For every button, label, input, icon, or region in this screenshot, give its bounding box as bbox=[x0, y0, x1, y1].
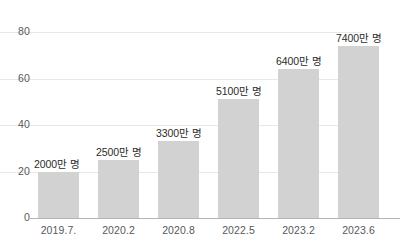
bar-label-0: 2000만 명 bbox=[34, 156, 80, 171]
x-axis-tick-3: 2022.5 bbox=[208, 224, 269, 236]
bar-2 bbox=[158, 141, 199, 218]
bars-layer: 2000만 명 2019.7. 2500만 명 2020.2 3300만 명 2… bbox=[0, 0, 412, 252]
bar-label-1: 2500만 명 bbox=[96, 144, 142, 159]
bar-5 bbox=[338, 46, 379, 218]
bar-1 bbox=[98, 160, 139, 218]
bar-0 bbox=[38, 172, 79, 219]
bar-3 bbox=[218, 99, 259, 218]
bar-4 bbox=[278, 69, 319, 218]
bar-label-2: 3300만 명 bbox=[156, 125, 202, 140]
x-axis-tick-5: 2023.6 bbox=[328, 224, 389, 236]
x-axis-tick-4: 2023.2 bbox=[268, 224, 329, 236]
bar-label-3: 5100만 명 bbox=[216, 83, 262, 98]
bar-chart: 80 60 40 20 0 2000만 명 2019.7. 2500만 명 20… bbox=[0, 0, 412, 252]
x-axis-tick-1: 2020.2 bbox=[88, 224, 149, 236]
bar-label-5: 7400만 명 bbox=[336, 30, 382, 45]
x-axis-tick-0: 2019.7. bbox=[28, 224, 89, 236]
x-axis-tick-2: 2020.8 bbox=[148, 224, 209, 236]
bar-label-4: 6400만 명 bbox=[276, 53, 322, 68]
